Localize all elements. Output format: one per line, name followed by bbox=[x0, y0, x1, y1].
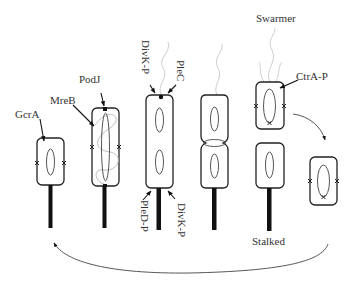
label-pled: PleD-P bbox=[139, 200, 151, 232]
mreb-arrow bbox=[73, 105, 94, 126]
cycle-return-arrow bbox=[54, 243, 328, 273]
caulobacter-cell-cycle-diagram: GcrA PodJ MreB DivK-P PleC PleD-P bbox=[0, 0, 351, 287]
flagellum bbox=[160, 42, 169, 96]
cell-body bbox=[37, 138, 64, 185]
stage-3-cell: DivK-P PleC PleD-P DivK-P bbox=[139, 40, 188, 237]
transition-arrow bbox=[293, 114, 325, 140]
label-divk-top: DivK-P bbox=[140, 40, 152, 74]
label-mreb: MreB bbox=[50, 94, 76, 106]
label-gcra: GcrA bbox=[15, 108, 39, 120]
flagellum-3 bbox=[276, 62, 282, 82]
pole-dot bbox=[159, 95, 163, 99]
stalk bbox=[212, 188, 217, 230]
divk-top-arrow bbox=[150, 85, 155, 93]
stage-5-cells: Swarmer CtrA-P Stalked bbox=[252, 12, 328, 247]
stalk bbox=[103, 186, 107, 228]
podj-arrow bbox=[101, 93, 104, 106]
stalk bbox=[49, 185, 53, 228]
stalk bbox=[157, 188, 162, 230]
flagellum bbox=[216, 44, 222, 95]
label-swarmer: Swarmer bbox=[256, 12, 296, 24]
label-stalked: Stalked bbox=[252, 235, 285, 247]
label-podj: PodJ bbox=[79, 73, 101, 85]
plec-arrow bbox=[168, 85, 176, 93]
stage-6-cell bbox=[293, 114, 339, 205]
flagellum-2 bbox=[259, 62, 264, 82]
stalk bbox=[267, 188, 272, 231]
podj-pole-marker bbox=[103, 107, 107, 111]
label-divk-bottom: DivK-P bbox=[176, 203, 188, 237]
label-plec: PleC bbox=[175, 60, 187, 81]
stage-4-cell bbox=[201, 44, 228, 230]
pled-arrow bbox=[143, 191, 151, 200]
label-ctra: CtrA-P bbox=[296, 70, 328, 82]
stalked-cell-body bbox=[256, 143, 284, 188]
divk-bottom-arrow bbox=[168, 191, 175, 199]
flagellum bbox=[268, 28, 275, 82]
cell-body bbox=[310, 157, 337, 205]
stage-1-cell: GcrA bbox=[15, 108, 66, 228]
